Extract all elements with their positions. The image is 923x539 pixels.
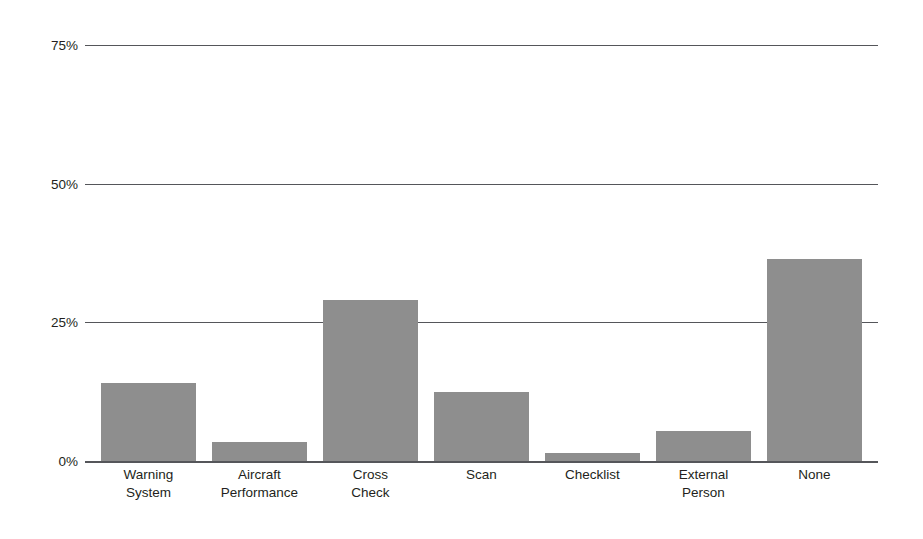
x-label-line-1: External [679,467,729,482]
x-label-line-2: Check [315,484,426,502]
x-label-warning-system: WarningSystem [93,466,204,502]
x-label-line-1: Checklist [565,467,620,482]
x-label-line-1: None [798,467,830,482]
x-label-checklist: Checklist [537,466,648,484]
x-label-line-1: Aircraft [238,467,281,482]
bar-warning-system[interactable] [101,383,196,461]
bar-chart: 75% 50% 25% 0% WarningSystemAircraftPerf… [0,0,923,539]
x-label-line-2: Performance [204,484,315,502]
x-label-line-1: Warning [124,467,174,482]
bar-aircraft-performance[interactable] [212,442,307,461]
bar-external-person[interactable] [656,431,751,462]
x-label-cross-check: CrossCheck [315,466,426,502]
x-label-line-2: Person [648,484,759,502]
bar-checklist[interactable] [545,453,640,461]
x-label-line-1: Cross [353,467,388,482]
x-axis-labels: WarningSystemAircraftPerformanceCrossChe… [0,466,923,526]
x-label-scan: Scan [426,466,537,484]
x-label-external-person: ExternalPerson [648,466,759,502]
bar-none[interactable] [767,259,862,461]
bar-cross-check[interactable] [323,300,418,461]
x-label-aircraft-performance: AircraftPerformance [204,466,315,502]
x-label-line-1: Scan [466,467,497,482]
bars-group [0,0,923,539]
bar-scan[interactable] [434,392,529,461]
x-label-none: None [759,466,870,484]
x-label-line-2: System [93,484,204,502]
